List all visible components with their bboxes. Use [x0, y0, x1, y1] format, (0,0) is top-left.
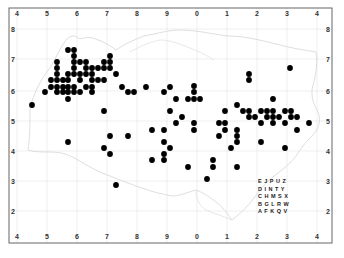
record-dot	[77, 59, 83, 65]
record-dot	[222, 120, 228, 126]
record-dot	[264, 114, 270, 120]
record-dot	[294, 127, 300, 133]
record-dot	[65, 84, 71, 90]
record-dot	[71, 65, 77, 71]
record-dot	[210, 157, 216, 163]
distribution-map: 45678901234 45678901234 8765432 8765432 …	[0, 0, 344, 258]
record-dot	[216, 133, 222, 139]
tetrad-key-row: E J P U Z	[258, 178, 286, 184]
y-tick-label: 8	[326, 26, 330, 33]
x-tick-label: 4	[15, 233, 19, 240]
y-tick-label: 5	[11, 118, 15, 125]
record-dot	[89, 84, 95, 90]
record-dot	[197, 96, 203, 102]
record-dot	[54, 77, 60, 83]
record-dot	[71, 59, 77, 65]
record-dot	[143, 84, 149, 90]
record-dot	[246, 77, 252, 83]
record-dot	[101, 145, 107, 151]
record-dot	[270, 96, 276, 102]
record-dot	[191, 96, 197, 102]
record-dot	[282, 145, 288, 151]
record-dot	[83, 84, 89, 90]
record-dot	[185, 164, 191, 170]
x-tick-label: 8	[135, 233, 139, 240]
x-tick-labels-bottom: 45678901234	[15, 233, 319, 240]
record-dot	[306, 120, 312, 126]
record-dot	[77, 77, 83, 83]
record-dot	[131, 89, 137, 95]
record-dot	[101, 108, 107, 114]
x-tick-label: 2	[255, 233, 259, 240]
record-dot	[71, 47, 77, 53]
record-dot	[179, 114, 185, 120]
record-dot	[288, 108, 294, 114]
x-tick-label: 4	[315, 233, 319, 240]
record-dot	[113, 71, 119, 77]
record-dot	[282, 120, 288, 126]
record-dot	[113, 182, 119, 188]
x-tick-label: 5	[45, 233, 49, 240]
record-dot	[161, 89, 167, 95]
record-dot	[89, 89, 95, 95]
record-dot	[167, 108, 173, 114]
record-dot	[125, 133, 131, 139]
x-tick-label: 2	[255, 10, 259, 17]
x-tick-label: 4	[315, 10, 319, 17]
record-dot	[282, 108, 288, 114]
x-tick-labels-top: 45678901234	[15, 10, 319, 17]
record-dot	[270, 120, 276, 126]
record-dot	[294, 114, 300, 120]
y-tick-labels-right: 8765432	[326, 26, 330, 215]
record-dot	[54, 89, 60, 95]
y-tick-label: 4	[326, 148, 330, 155]
record-dot	[89, 77, 95, 83]
y-tick-label: 6	[326, 88, 330, 95]
record-dot	[149, 127, 155, 133]
record-dot	[204, 176, 210, 182]
y-tick-label: 2	[326, 208, 330, 215]
record-dot	[287, 65, 293, 71]
record-dot	[234, 139, 240, 145]
x-tick-label: 3	[285, 10, 289, 17]
coastline	[28, 30, 320, 220]
record-dot	[210, 164, 216, 170]
record-dot	[270, 108, 276, 114]
record-dot	[258, 108, 264, 114]
record-dot	[173, 96, 179, 102]
y-tick-label: 3	[11, 178, 15, 185]
record-dot	[234, 164, 240, 170]
x-tick-label: 9	[165, 10, 169, 17]
record-dot	[54, 65, 60, 71]
record-dot	[65, 139, 71, 145]
record-dot	[60, 77, 66, 83]
record-dot	[246, 114, 252, 120]
y-tick-label: 5	[326, 118, 330, 125]
record-dot	[107, 133, 113, 139]
tetrad-key-row: A F K Q V	[258, 208, 288, 214]
record-dot	[65, 96, 71, 102]
record-dot	[65, 71, 71, 77]
x-tick-label: 8	[135, 10, 139, 17]
record-dot	[234, 127, 240, 133]
record-dot	[77, 71, 83, 77]
record-dot	[276, 114, 282, 120]
x-tick-label: 6	[75, 10, 79, 17]
record-dot	[42, 89, 48, 95]
record-dot	[191, 89, 197, 95]
record-dot	[89, 65, 95, 71]
record-dots	[29, 47, 312, 188]
record-dot	[149, 157, 155, 163]
y-tick-label: 7	[11, 56, 15, 63]
record-dot	[71, 71, 77, 77]
record-dot	[71, 84, 77, 90]
record-dot	[65, 89, 71, 95]
y-tick-label: 4	[11, 148, 15, 155]
x-tick-label: 6	[75, 233, 79, 240]
record-dot	[119, 84, 125, 90]
record-dot	[83, 71, 89, 77]
record-dot	[288, 114, 294, 120]
record-dot	[95, 65, 101, 71]
record-dot	[54, 59, 60, 65]
x-tick-label: 1	[225, 233, 229, 240]
